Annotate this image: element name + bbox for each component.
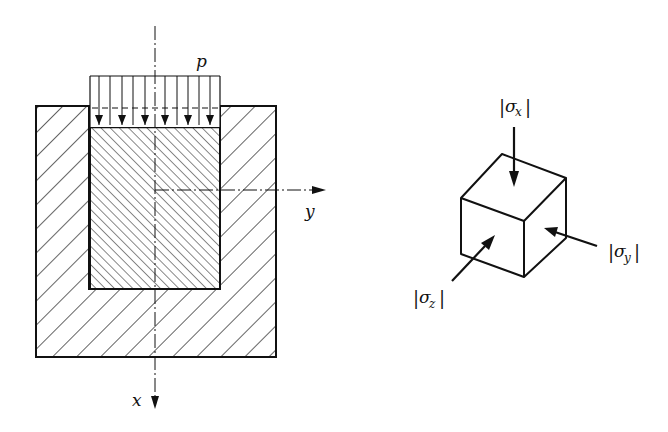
x-axis-label: x — [132, 390, 142, 410]
sigma-z-label: | σ z | — [413, 287, 445, 311]
cavity-diagram: p y x — [36, 26, 326, 410]
svg-text:|: | — [525, 96, 531, 118]
load-label: p — [196, 51, 207, 71]
svg-text:z: z — [428, 297, 436, 311]
svg-text:|: | — [439, 287, 445, 309]
svg-text:y: y — [623, 251, 631, 265]
svg-text:x: x — [515, 105, 522, 119]
svg-text:|: | — [634, 241, 640, 263]
figure-canvas: p y x | σ x | | σ y | | σ z | — [0, 0, 668, 432]
y-axis-label: y — [304, 201, 315, 221]
x-axis-arrow-icon — [151, 396, 159, 409]
sigma-z-arrow — [452, 246, 485, 281]
sigma-y-arrowhead-icon — [544, 227, 558, 237]
y-axis-arrow-icon — [312, 186, 326, 194]
sigma-y-label: | σ y | — [608, 241, 640, 265]
sigma-y-arrow — [555, 232, 597, 246]
sigma-x-label: | σ x | — [499, 96, 531, 119]
sigma-x-arrowhead-icon — [509, 171, 519, 187]
